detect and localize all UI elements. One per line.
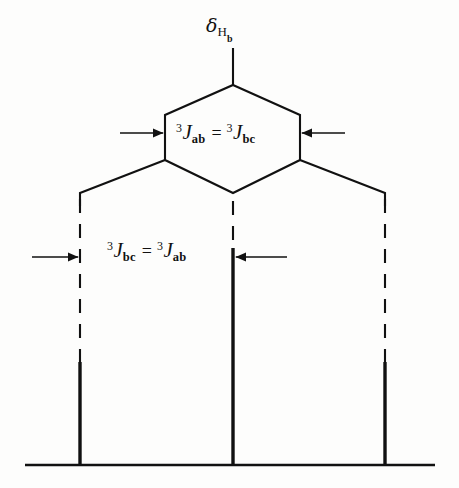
delta-symbol: δ (206, 14, 217, 36)
j-lower-equals: = (136, 241, 157, 261)
outer-branches-group (80, 160, 385, 206)
j-lower-right-symbol: J (163, 238, 173, 262)
j-upper-right-subscript: bc (242, 132, 255, 146)
figure-canvas: δHb 3Jab=3Jbc 3Jbc=3Jab (0, 0, 459, 488)
j-upper-equals: = (205, 123, 226, 143)
j-lower-left-subscript: bc (123, 250, 136, 264)
j-lower-right-subscript: ab (173, 250, 187, 264)
splitting-tree-svg (0, 0, 459, 488)
coupling-label-lower: 3Jbc=3Jab (107, 240, 186, 263)
j-lower-right-superscript: 3 (157, 239, 163, 253)
j-upper-left-symbol: J (182, 120, 192, 144)
left-branch (80, 160, 165, 206)
right-branch (300, 160, 385, 206)
j-upper-left-subscript: ab (192, 132, 206, 146)
j-upper-right-superscript: 3 (227, 121, 233, 135)
delta-sub-subscript-b: b (227, 33, 233, 44)
chemical-shift-label: δHb (206, 16, 233, 44)
coupling-label-upper: 3Jab=3Jbc (176, 122, 255, 145)
j-upper-right-symbol: J (233, 120, 243, 144)
spectrum-peaks-group (80, 248, 385, 465)
delta-subscript-h: H (217, 24, 227, 39)
j-lower-left-symbol: J (113, 238, 123, 262)
